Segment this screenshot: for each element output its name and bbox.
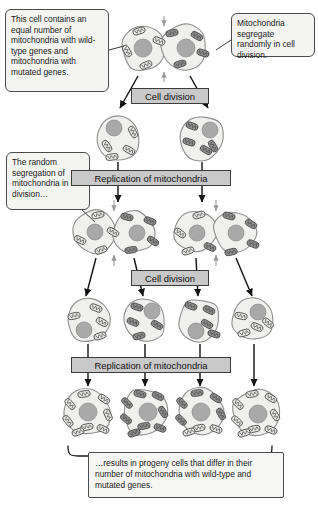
cell-row-4 — [67, 298, 274, 342]
callout-initial-tail — [109, 46, 124, 50]
nucleus — [129, 225, 145, 241]
callout-random-segregation: Mitochondria segregate randomly in cell … — [231, 13, 315, 57]
nucleus — [202, 122, 218, 138]
nucleus — [250, 304, 266, 320]
label-replication-2: Replication of mitochondria — [71, 357, 231, 373]
label-replication-1: Replication of mitochondria — [71, 170, 231, 186]
nucleus — [106, 120, 122, 136]
cell-row-3 — [73, 210, 260, 257]
division-arrow-2-d — [236, 258, 252, 296]
division-arrow-2-a — [86, 258, 96, 296]
cell-row-5 — [62, 387, 281, 437]
nucleus — [177, 39, 195, 57]
nucleus — [249, 405, 267, 423]
nucleus — [228, 225, 244, 241]
nucleus — [139, 403, 157, 421]
mitochondrion-wildtype — [105, 153, 118, 161]
nucleus — [188, 323, 204, 339]
nucleus — [87, 224, 103, 240]
callout-progeny-result: …results in progeny cells that differ in… — [88, 452, 284, 498]
label-cell-division-1: Cell division — [131, 88, 209, 104]
nucleus — [76, 322, 92, 338]
mitochondrion-wildtype — [237, 428, 251, 438]
nucleus — [144, 303, 160, 319]
callout-random-segregation-tail — [216, 40, 231, 50]
mitochondrion-mutated — [190, 389, 203, 397]
diagram-canvas: This cell contains an equal number of mi… — [0, 0, 318, 514]
mitochondrion-mutated — [203, 242, 217, 253]
cell-row-1 — [121, 24, 210, 70]
nucleus — [134, 39, 152, 57]
callout-initial-cell: This cell contains an equal number of mi… — [5, 9, 109, 92]
cell-row-2 — [97, 116, 223, 161]
nucleus — [189, 225, 205, 241]
nucleus — [79, 403, 97, 421]
mitochondrion-wildtype — [182, 427, 196, 437]
label-cell-division-2: Cell division — [131, 270, 209, 286]
nucleus — [192, 403, 210, 421]
